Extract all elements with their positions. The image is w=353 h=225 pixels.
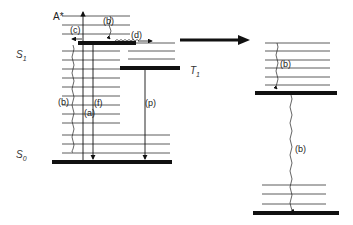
s1-sub: 1 — [23, 55, 27, 62]
label-c: (c) — [70, 26, 81, 35]
label-a: (a) — [84, 109, 95, 118]
label-b-right-lower: (b) — [295, 145, 306, 154]
acceptor-upper-levels — [265, 43, 330, 85]
label-d: (d) — [131, 31, 142, 40]
t1-level — [120, 66, 180, 70]
internal-conversion-wavy — [72, 45, 74, 152]
s1-vibrational-levels — [62, 16, 170, 153]
label-p: (p) — [145, 99, 156, 108]
jablonski-diagram — [0, 0, 353, 225]
transfer-arrowhead — [238, 35, 250, 45]
t1-vibrational-levels — [128, 43, 175, 59]
s0-label: S0 — [16, 150, 27, 162]
t1-label: T1 — [190, 66, 200, 78]
s0-main: S — [16, 149, 23, 160]
acceptor-ground-level — [253, 211, 339, 215]
acceptor-relaxation-wavy — [276, 43, 278, 89]
acceptor-lower-levels — [262, 185, 326, 204]
label-f: (f) — [94, 99, 103, 108]
acceptor-excited-level — [255, 91, 337, 95]
s1-label: S1 — [16, 50, 27, 62]
t1-sub: 1 — [196, 71, 200, 78]
label-b-right-upper: (b) — [280, 60, 291, 69]
label-b-left: (b) — [58, 98, 69, 107]
s1-main: S — [16, 49, 23, 60]
excited-state-label: A* — [53, 12, 64, 22]
label-b-top: (b) — [103, 17, 114, 26]
acceptor-nonradiative-wavy — [290, 95, 292, 212]
s1-level — [78, 41, 136, 45]
s0-sub: 0 — [23, 155, 27, 162]
s0-level — [52, 160, 172, 164]
